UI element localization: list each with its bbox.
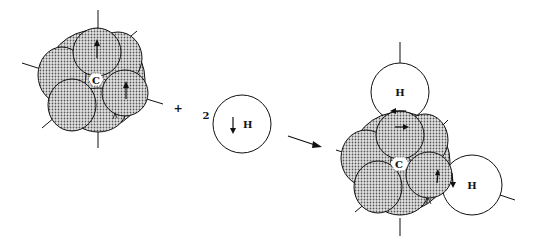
carbon-label: C [395, 159, 403, 170]
reaction-arrow-icon [288, 136, 322, 148]
reaction-diagram: C + 2 H [0, 0, 539, 246]
hydrogen-label: H [243, 119, 252, 130]
coefficient: 2 [203, 110, 210, 121]
hydrogen-label: H [467, 180, 476, 191]
hydrogen-label: H [395, 87, 404, 98]
product-molecule: H H C [336, 42, 515, 236]
plus-sign: + [173, 102, 182, 115]
reactant-carbon-atom: C [22, 10, 163, 148]
reactant-hydrogen-atom: H [213, 95, 271, 153]
product-hydrogen-right: H [442, 155, 502, 215]
carbon-label: C [92, 75, 100, 86]
